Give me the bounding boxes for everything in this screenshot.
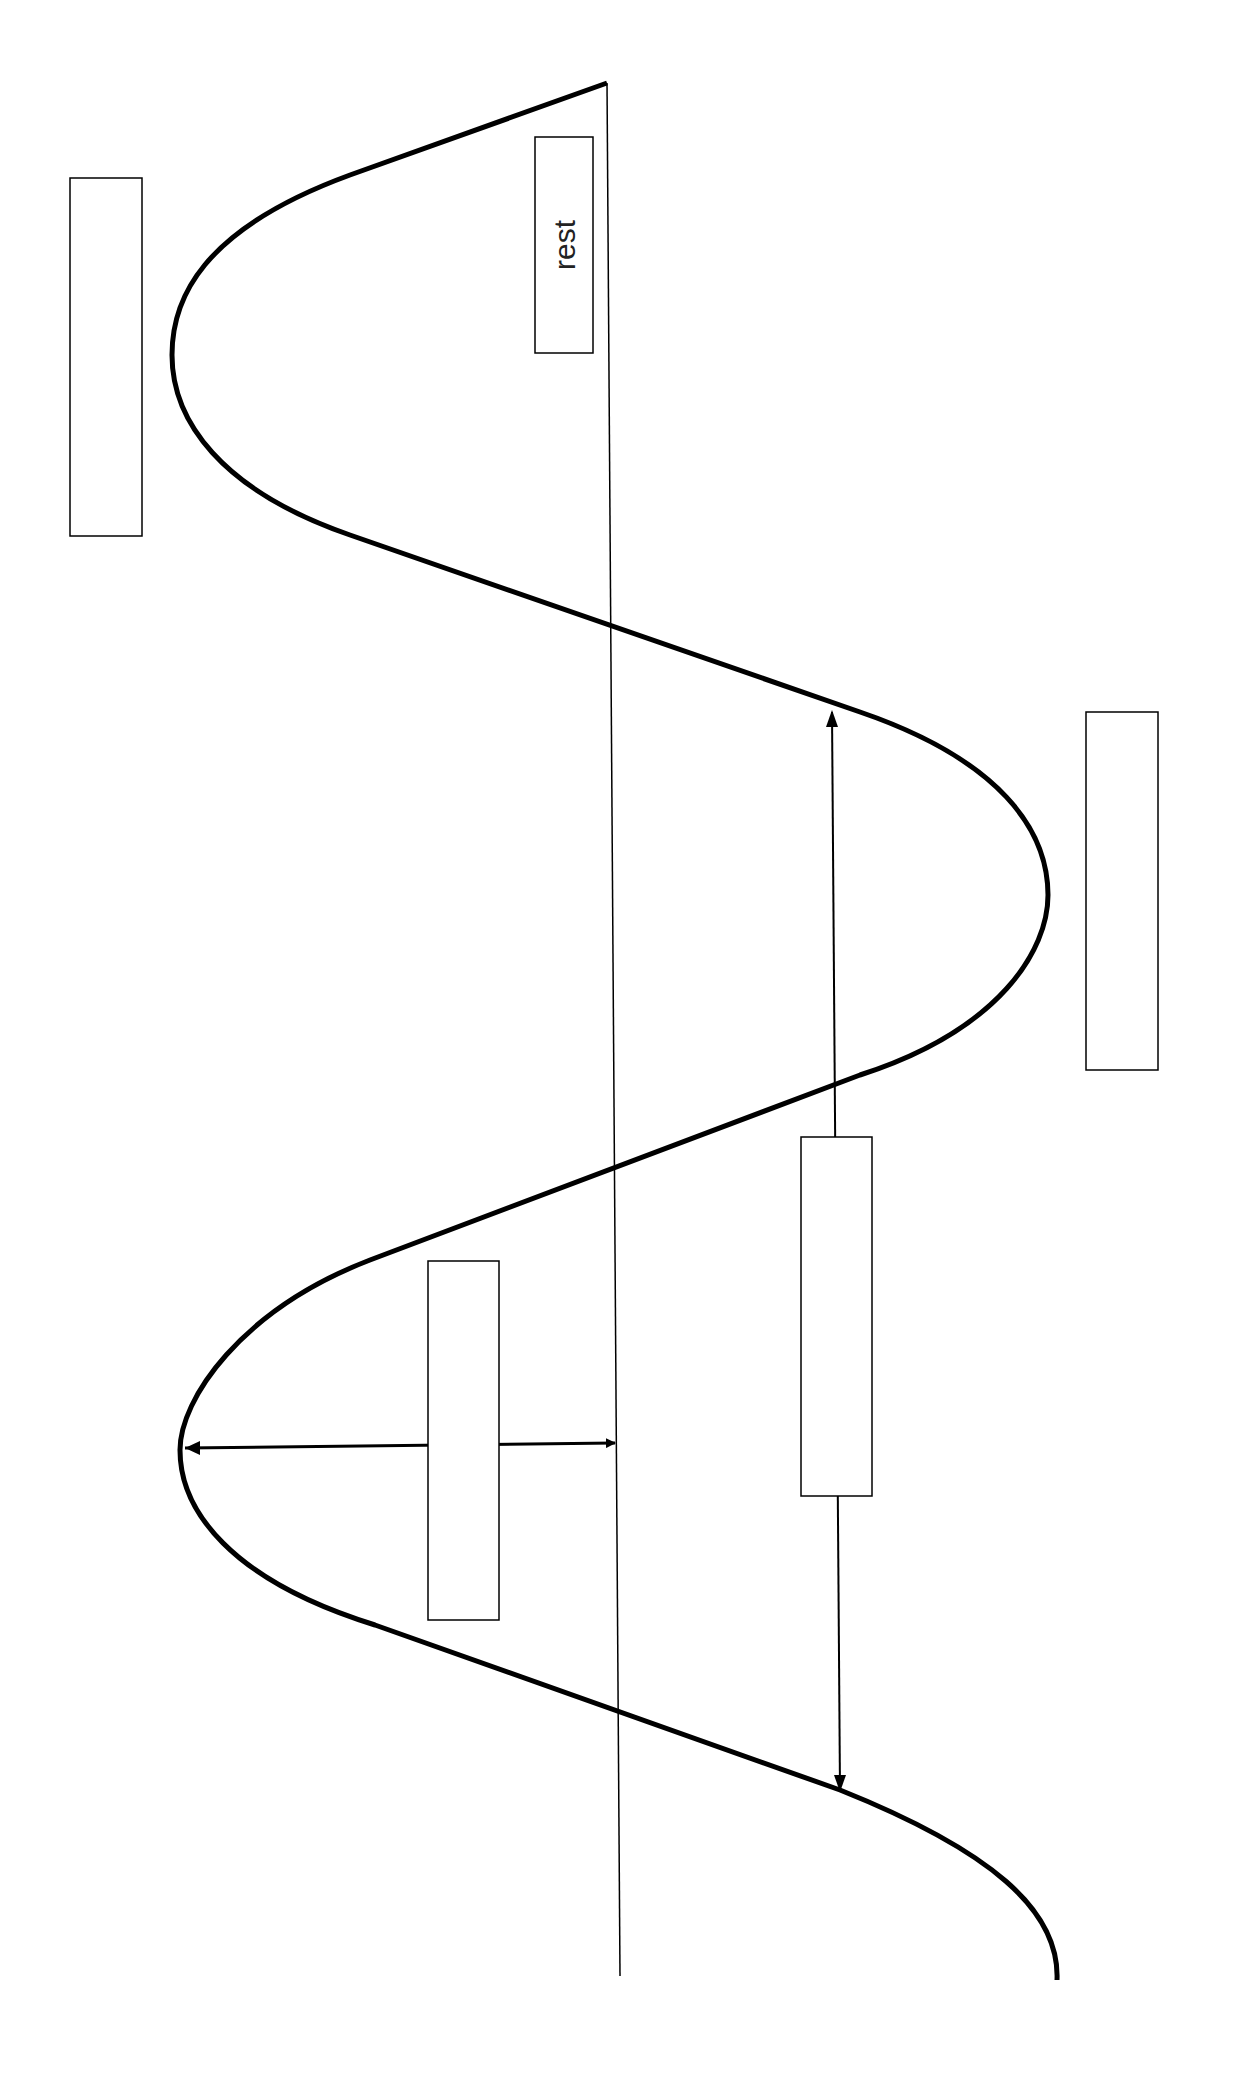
wave-curve [172, 83, 1057, 1980]
rest-label: rest [548, 219, 581, 270]
rest-line [607, 83, 620, 1976]
wave-diagram: rest [0, 0, 1234, 2075]
diagram-svg: rest [0, 0, 1234, 2075]
arrowhead-icon [185, 1441, 200, 1455]
arrowhead-icon [826, 710, 838, 727]
label-box-amplitude[interactable] [428, 1261, 499, 1620]
label-box-trough[interactable] [1086, 712, 1158, 1070]
label-box-crest-top[interactable] [70, 178, 142, 536]
label-box-wavelength[interactable] [801, 1137, 872, 1496]
amplitude-arrow [185, 1443, 615, 1448]
